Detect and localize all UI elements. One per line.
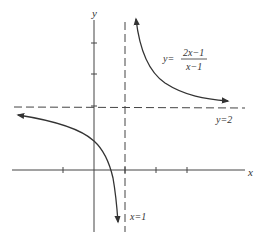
left-branch-curve bbox=[18, 115, 118, 222]
y-axis-label: y bbox=[91, 7, 97, 19]
rational-function-graph: y x y= 2x−1 x−1 y=2 x=1 bbox=[0, 0, 265, 241]
vertical-asymptote-label: x=1 bbox=[129, 211, 146, 222]
svg-text:y=: y= bbox=[162, 53, 174, 64]
x-axis-label: x bbox=[247, 166, 253, 178]
svg-text:x−1: x−1 bbox=[185, 61, 202, 72]
horizontal-asymptote bbox=[14, 107, 245, 108]
right-branch-curve bbox=[136, 19, 228, 101]
svg-text:2x−1: 2x−1 bbox=[183, 47, 204, 58]
function-label: y= 2x−1 x−1 bbox=[162, 47, 207, 72]
horizontal-asymptote-label: y=2 bbox=[215, 114, 232, 125]
